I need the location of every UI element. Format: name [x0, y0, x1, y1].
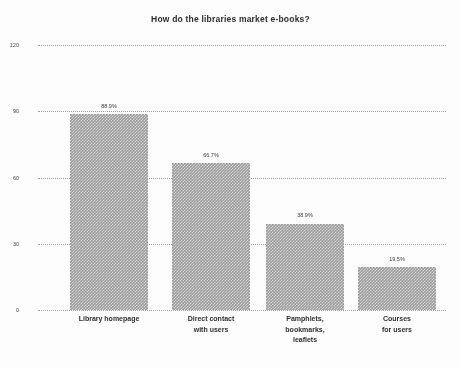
ytick-label-30: 30	[0, 241, 19, 247]
xtick-label-library-homepage: Library homepage	[54, 314, 164, 325]
chart-title: How do the libraries market e-books?	[0, 14, 461, 24]
ytick-label-120: 120	[0, 42, 19, 48]
bar-rect-library-homepage[interactable]	[70, 114, 148, 310]
bar-value-direct-contact: 66.7%	[172, 152, 250, 158]
bar-group-pamphlets[interactable]: 38.9%	[266, 45, 344, 310]
xtick-line: Courses	[342, 314, 452, 325]
bar-rect-courses[interactable]	[358, 267, 436, 310]
xtick-label-courses: Courses for users	[342, 314, 452, 335]
bar-rect-direct-contact[interactable]	[172, 163, 250, 310]
xaxis-labels: Library homepage Direct contact with use…	[38, 314, 446, 366]
bar-group-courses[interactable]: 19.5%	[358, 45, 436, 310]
bar-value-pamphlets: 38.9%	[266, 212, 344, 218]
xtick-line: leaflets	[250, 335, 360, 346]
xtick-line: for users	[342, 325, 452, 336]
ytick-label-0: 0	[0, 307, 19, 313]
bar-chart-figure: How do the libraries market e-books? 120…	[0, 0, 461, 369]
xtick-line: Library homepage	[54, 314, 164, 325]
plot-area: 120 90 60 30 0 88.9% 66.7% 38.9% 19.5	[38, 45, 446, 310]
bar-rect-pamphlets[interactable]	[266, 224, 344, 310]
bar-value-library-homepage: 88.9%	[70, 103, 148, 109]
ytick-label-90: 90	[0, 108, 19, 114]
gridline-0	[38, 310, 446, 311]
bar-group-direct-contact[interactable]: 66.7%	[172, 45, 250, 310]
bar-group-library-homepage[interactable]: 88.9%	[70, 45, 148, 310]
bar-value-courses: 19.5%	[358, 256, 436, 262]
ytick-label-60: 60	[0, 175, 19, 181]
bars-layer: 88.9% 66.7% 38.9% 19.5%	[38, 45, 446, 310]
